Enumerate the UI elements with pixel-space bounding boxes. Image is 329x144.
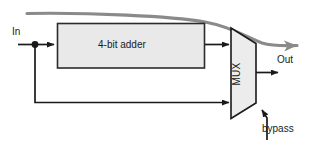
mux-block-label: MUX	[232, 62, 242, 86]
input-port-label: In	[12, 27, 20, 37]
bypass-select-label: bypass	[262, 124, 294, 134]
block-diagram: In 4-bit adder MUX Out bypass	[0, 0, 329, 144]
adder-block-label: 4-bit adder	[98, 40, 146, 50]
output-port-label: Out	[277, 55, 293, 65]
